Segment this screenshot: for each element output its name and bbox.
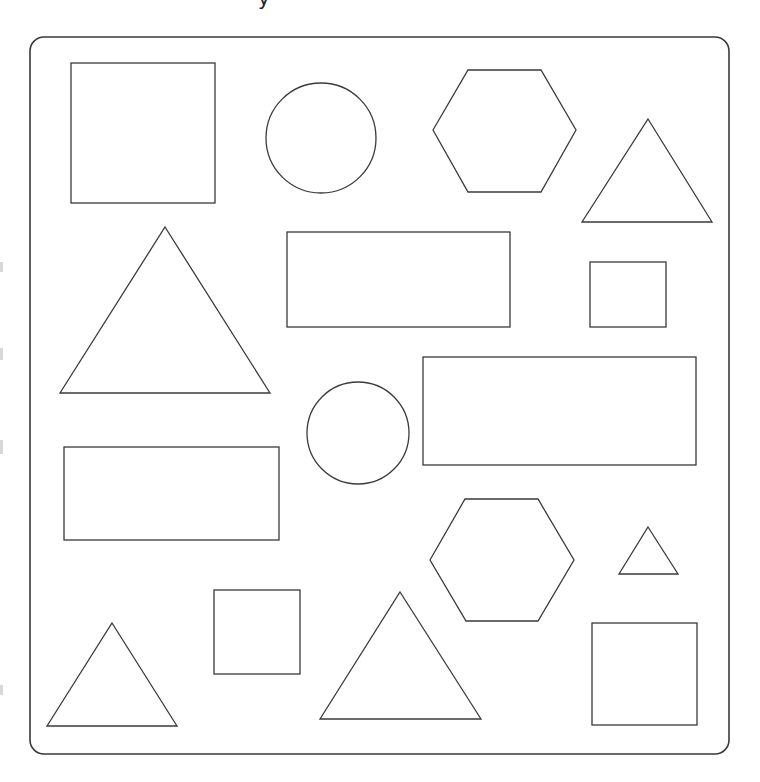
rounded-frame bbox=[30, 37, 729, 754]
shapes-canvas bbox=[0, 0, 760, 782]
square-3 bbox=[214, 590, 300, 674]
square-2 bbox=[590, 262, 666, 327]
circle-1 bbox=[266, 83, 376, 193]
hexagon-1 bbox=[433, 70, 576, 192]
rect-2 bbox=[423, 357, 696, 465]
square-1 bbox=[71, 63, 215, 203]
triangle-4 bbox=[47, 623, 177, 726]
triangle-5 bbox=[320, 592, 481, 719]
rect-3 bbox=[64, 447, 279, 540]
triangle-3 bbox=[619, 527, 678, 574]
rect-1 bbox=[287, 232, 510, 327]
triangle-2 bbox=[60, 227, 270, 393]
square-4 bbox=[592, 623, 697, 725]
triangle-1 bbox=[582, 119, 712, 222]
circle-2 bbox=[307, 382, 409, 484]
shapes-group bbox=[47, 63, 712, 726]
hexagon-2 bbox=[430, 499, 574, 621]
